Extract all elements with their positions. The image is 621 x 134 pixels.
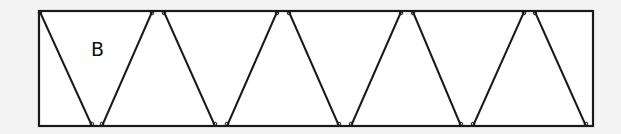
diagram-canvas: B [0,0,621,134]
outer-rectangle [39,11,593,126]
region-label-b: B [91,40,104,59]
triangle-strip-diagram [0,0,621,134]
